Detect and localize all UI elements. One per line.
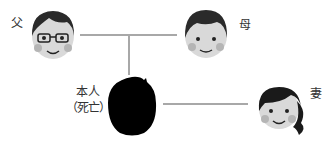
- wife-avatar-icon: [255, 81, 307, 137]
- mother-avatar-icon: [183, 6, 229, 60]
- wife-label: 妻: [310, 87, 322, 101]
- self-wife-marriage-line: [163, 103, 248, 105]
- self-status-label: （死亡）: [66, 101, 110, 115]
- father-label: 父: [11, 16, 23, 30]
- mother-label: 母: [239, 18, 251, 32]
- self-label: 本人: [76, 85, 100, 99]
- parent-child-line: [128, 35, 130, 75]
- self-silhouette-icon: [106, 75, 158, 137]
- father-avatar-icon: [29, 6, 77, 61]
